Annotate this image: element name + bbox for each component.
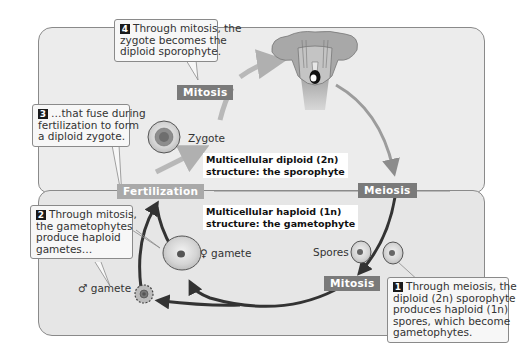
callout-4-pointer [186, 60, 198, 80]
callout-step-1: 1Through meiosis, the diploid (2n) sporo… [387, 277, 509, 343]
callout-2-line4: gametes… [36, 244, 127, 256]
callout-4-text1: Through mitosis, the [133, 22, 241, 34]
fertilization-stage-label: Fertilization [117, 184, 204, 199]
meiosis-stage-label: Meiosis [358, 183, 417, 198]
sporophyte-label-line1: Multicellular diploid (2n) [206, 154, 345, 166]
callout-1-line3: produces haploid (1n) [393, 304, 503, 316]
callout-4-line1: 4Through mitosis, the [120, 23, 212, 35]
callout-3-text1: …that fuse during [51, 107, 146, 119]
gametophyte-label-line1: Multicellular haploid (1n) [206, 206, 355, 218]
callout-2-text1: Through mitosis, [49, 208, 137, 220]
female-gamete-label: ♀ gamete [200, 247, 251, 259]
zygote-cell-icon [148, 121, 180, 153]
mitosis-stage-label-top: Mitosis [177, 85, 233, 100]
callout-1-line1: 1Through meiosis, the [393, 281, 503, 293]
arrow-male-to-fertilization [140, 207, 155, 288]
male-gamete-cell-icon [135, 285, 153, 303]
callout-step-2: 2Through mitosis, the gametophytes produ… [30, 205, 133, 259]
gametophyte-label-line2: structure: the gametophyte [206, 218, 355, 230]
step-badge-4: 4 [120, 24, 130, 34]
callout-2-line1: 2Through mitosis, [36, 209, 127, 221]
callout-2-line3: produce haploid [36, 232, 127, 244]
callout-3-line1: 3…that fuse during [38, 108, 124, 120]
sporophyte-label-line2: structure: the sporophyte [206, 166, 345, 178]
zygote-label: Zygote [188, 132, 225, 144]
flower-sporophyte-icon [272, 31, 358, 110]
callout-1-text1: Through meiosis, the [406, 280, 517, 292]
arrow-fertilization-to-zygote [156, 152, 196, 172]
callout-step-3: 3…that fuse during fertilization to form… [32, 104, 130, 147]
sporophyte-structure-label: Multicellular diploid (2n) structure: th… [203, 153, 348, 178]
callout-2-pointer-female [132, 230, 160, 248]
callout-1-line5: gametophytes. [393, 327, 503, 339]
step-badge-3: 3 [38, 109, 48, 119]
spores-label: Spores [313, 246, 349, 258]
arrow-mitosis-to-female-gamete [192, 286, 335, 306]
spore-cell-icon [351, 241, 371, 263]
callout-step-4: 4Through mitosis, the zygote becomes the… [114, 19, 218, 62]
spore-cell-icon [383, 242, 403, 264]
gametophyte-structure-label: Multicellular haploid (1n) structure: th… [203, 205, 358, 230]
female-gamete-cell-icon [163, 236, 201, 270]
male-gamete-label: ♂ gamete [78, 282, 131, 294]
callout-4-line3: diploid sporophyte. [120, 46, 212, 58]
step-badge-1: 1 [393, 282, 403, 292]
step-badge-2: 2 [36, 210, 46, 220]
mitosis-stage-label-bottom: Mitosis [324, 276, 380, 291]
callout-3-line3: a diploid zygote. [38, 131, 124, 143]
